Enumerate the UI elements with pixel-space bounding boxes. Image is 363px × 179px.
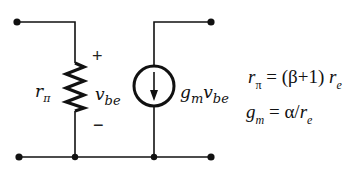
gm-symbol: g xyxy=(180,82,191,102)
eq1-rhs-sub: e xyxy=(336,78,341,92)
r-pi-label: rπ xyxy=(35,83,50,100)
equation-gm: gm = α/re xyxy=(246,102,312,121)
terminal-dot-collector xyxy=(207,18,214,25)
gm-vbe-label: gmvbe xyxy=(180,84,229,101)
junction-dot-resistor xyxy=(72,154,78,160)
v-be-symbol: v xyxy=(95,84,105,104)
v-be-subscript: be xyxy=(105,93,121,108)
vbe-subscript: be xyxy=(213,91,229,106)
r-pi-symbol: r xyxy=(35,81,43,101)
eq2-lhs-sub: m xyxy=(256,113,265,127)
wire-top-left xyxy=(17,22,75,63)
eq2-rhs: r xyxy=(300,101,307,122)
vbe-symbol: v xyxy=(203,82,213,102)
current-source-icon xyxy=(134,66,174,106)
eq2-rhs-sub: e xyxy=(307,113,312,127)
terminal-dot-emitter-left xyxy=(15,153,22,160)
junction-dot-source xyxy=(151,154,157,160)
minus-sign: − xyxy=(93,116,104,134)
gm-subscript: m xyxy=(191,91,203,106)
r-pi-subscript: π xyxy=(43,92,50,105)
resistor-r-pi-icon xyxy=(66,63,84,111)
terminal-dot-emitter-right xyxy=(207,153,214,160)
hybrid-pi-circuit-diagram: rπ + − vbe gmvbe rπ = (β+1) re gm = α/re xyxy=(0,0,363,179)
v-be-label: vbe xyxy=(95,86,121,103)
plus-sign: + xyxy=(92,47,103,65)
eq2-lhs: g xyxy=(246,101,256,122)
eq2-mid: = α/ xyxy=(269,101,300,122)
terminal-dot-base xyxy=(13,18,20,25)
equation-r-pi: rπ = (β+1) re xyxy=(248,67,342,86)
wire-top-right xyxy=(154,22,211,66)
eq1-mid: = (β+1) xyxy=(266,66,324,87)
eq1-lhs-sub: π xyxy=(255,78,261,92)
